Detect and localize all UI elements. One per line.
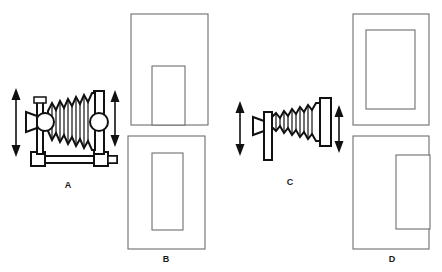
- figure-c-left-arrow: [236, 101, 245, 156]
- figure-d-label: D: [389, 254, 396, 264]
- figure-c-label: C: [287, 177, 294, 187]
- panel-top-left: [131, 14, 208, 125]
- figure-b-label: B: [163, 254, 170, 264]
- figure-c-bellows: [272, 103, 320, 141]
- figure-c-right-arrow: [335, 105, 344, 153]
- panel-d: D: [353, 136, 430, 264]
- figure-c-group: C: [236, 98, 344, 187]
- figure-a-group: A: [12, 88, 120, 190]
- figure-a-right-arrow: [111, 90, 120, 147]
- figure-a-label: A: [65, 180, 72, 190]
- figure-c-rear-plate: [320, 98, 331, 146]
- figure-a-front-knob: [36, 113, 54, 131]
- diagram-svg: A B: [0, 0, 442, 272]
- figure-c-front-plate: [264, 112, 272, 160]
- diagram-canvas: A B: [0, 0, 442, 272]
- panel-b: B: [128, 136, 205, 264]
- figure-a-lens: [26, 112, 37, 132]
- figure-a-rear-knob: [90, 113, 108, 131]
- figure-c-lens: [253, 117, 264, 135]
- figure-a-bellows: [48, 93, 95, 150]
- figure-a-left-arrow: [12, 88, 21, 157]
- panel-top-right: [353, 14, 429, 125]
